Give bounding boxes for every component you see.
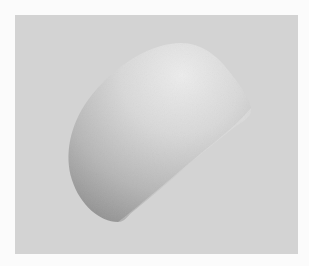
image-frame bbox=[0, 0, 309, 266]
dome-object bbox=[0, 0, 309, 266]
dome-texture bbox=[69, 43, 252, 222]
